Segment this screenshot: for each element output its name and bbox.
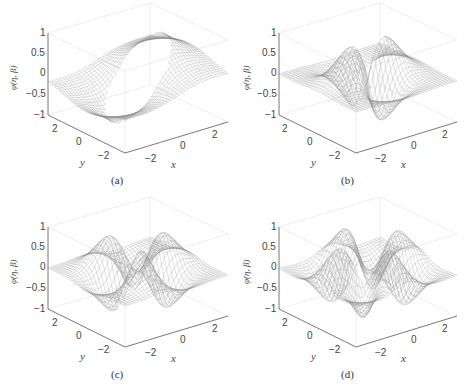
x-tick: 0	[180, 141, 186, 151]
panel-caption: (c)	[111, 368, 123, 380]
x-axis-label: x	[401, 158, 406, 170]
z-tick: −0.5	[26, 89, 46, 99]
z-tick: −0.5	[26, 283, 46, 293]
y-tick: −2	[329, 151, 340, 161]
z-tick: −1	[34, 304, 45, 314]
y-tick: 0	[307, 137, 313, 147]
y-tick: −2	[98, 345, 109, 355]
y-tick: 0	[76, 331, 82, 341]
panel-caption: (d)	[341, 368, 354, 380]
subplot-d: φ(η, β) 1 0.5 0 −0.5 −1 2 0 −2 −2 0 2 y …	[235, 195, 470, 388]
z-tick: 0	[271, 262, 277, 272]
x-tick: −2	[375, 154, 386, 164]
z-tick: −1	[265, 304, 276, 314]
y-tick: 2	[282, 318, 288, 328]
z-tick: 0.5	[262, 242, 276, 252]
y-tick: 2	[52, 124, 58, 134]
y-tick: −2	[98, 151, 109, 161]
x-tick: 0	[411, 335, 417, 345]
z-axis-label: φ(η, β)	[8, 260, 18, 284]
z-tick: −1	[34, 110, 45, 120]
subplot-a: φ(η, β) 1 0.5 0 −0.5 −1 2 0 −2 −2 0 2 y …	[0, 0, 235, 194]
subplot-b: φ(η, β) 1 0.5 0 −0.5 −1 2 0 −2 −2 0 2 y …	[235, 0, 470, 194]
z-tick: 0	[40, 262, 46, 272]
z-tick: 0	[271, 68, 277, 78]
x-axis-label: x	[401, 352, 406, 364]
x-axis-label: x	[171, 352, 176, 364]
z-axis-label: φ(η, β)	[241, 260, 251, 284]
x-tick: 2	[212, 324, 218, 334]
x-axis-label: x	[171, 158, 176, 170]
y-tick: −2	[329, 345, 340, 355]
z-tick: 1	[271, 222, 277, 232]
subplot-c: φ(η, β) 1 0.5 0 −0.5 −1 2 0 −2 −2 0 2 y …	[0, 195, 235, 388]
y-axis-label: y	[80, 350, 85, 362]
z-tick: −0.5	[257, 283, 277, 293]
z-tick: 0.5	[262, 48, 276, 58]
x-tick: 2	[442, 130, 448, 140]
x-tick: −2	[145, 348, 156, 358]
y-axis-label: y	[311, 156, 316, 168]
panel-caption: (b)	[341, 174, 354, 186]
x-tick: 0	[411, 141, 417, 151]
z-tick: 0.5	[31, 48, 45, 58]
z-tick: −0.5	[257, 89, 277, 99]
x-tick: −2	[375, 348, 386, 358]
z-axis-label: φ(η, β)	[8, 66, 18, 90]
z-tick: −1	[265, 110, 276, 120]
z-tick: 1	[40, 222, 46, 232]
y-axis-label: y	[80, 156, 85, 168]
y-tick: 2	[52, 318, 58, 328]
x-tick: 2	[212, 130, 218, 140]
x-tick: 2	[442, 324, 448, 334]
x-tick: 0	[180, 335, 186, 345]
z-tick: 0.5	[31, 242, 45, 252]
y-tick: 0	[307, 331, 313, 341]
z-axis-label: φ(η, β)	[241, 66, 251, 90]
panel-caption: (a)	[111, 174, 123, 186]
z-tick: 0	[40, 68, 46, 78]
y-axis-label: y	[311, 350, 316, 362]
z-tick: 1	[40, 28, 46, 38]
z-tick: 1	[271, 28, 277, 38]
y-tick: 2	[282, 124, 288, 134]
x-tick: −2	[145, 154, 156, 164]
y-tick: 0	[76, 137, 82, 147]
